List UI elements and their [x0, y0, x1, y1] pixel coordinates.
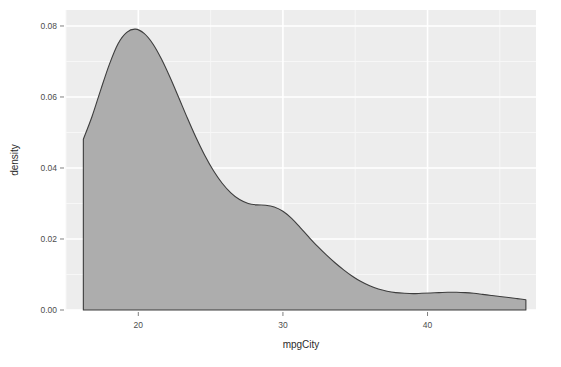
density-plot-figure: 203040 0.000.020.040.060.08 mpgCity dens… [0, 0, 561, 367]
x-tick-label: 20 [134, 320, 144, 330]
y-axis-title: density [9, 144, 20, 176]
y-tick-label: 0.02 [40, 234, 57, 244]
y-tick-label: 0.04 [40, 163, 57, 173]
x-tick-label: 30 [278, 320, 288, 330]
x-tick-label: 40 [423, 320, 433, 330]
y-tick-label: 0.08 [40, 21, 57, 31]
y-tick-label: 0.06 [40, 92, 57, 102]
plot-canvas: 203040 0.000.020.040.060.08 mpgCity dens… [0, 0, 561, 367]
x-axis-title: mpgCity [283, 339, 320, 350]
y-tick-label: 0.00 [40, 305, 57, 315]
